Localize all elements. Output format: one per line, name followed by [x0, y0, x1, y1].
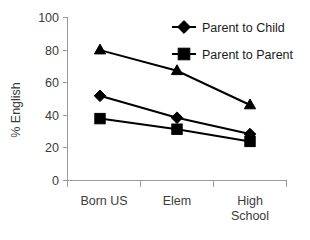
series-parent-to-parent-marker-born-us: [95, 113, 105, 123]
y-tick-label-60: 60: [45, 76, 59, 90]
y-tick-label-100: 100: [38, 11, 59, 25]
legend-label-parent-to-parent: Parent to Parent: [202, 48, 294, 62]
line-chart: 100 80 60 40 20 0 % English Born US Elem…: [0, 0, 310, 240]
chart-container: 100 80 60 40 20 0 % English Born US Elem…: [0, 0, 310, 240]
series-parent-to-parent-marker-high-school: [245, 136, 255, 146]
x-category-label-high-school-line2: School: [231, 209, 269, 223]
x-category-label-born-us: Born US: [80, 194, 127, 208]
y-tick-label-0: 0: [52, 174, 59, 188]
square-icon: [178, 48, 190, 60]
y-tick-label-40: 40: [45, 109, 59, 123]
y-tick-label-20: 20: [45, 141, 59, 155]
y-tick-label-80: 80: [45, 44, 59, 58]
x-category-label-high-school-line1: High: [237, 194, 263, 208]
y-axis-title: % English: [9, 82, 23, 138]
series-parent-to-parent-marker-elem: [172, 124, 182, 134]
x-category-label-elem: Elem: [163, 194, 191, 208]
legend-label-parent-to-child: Parent to Child: [202, 21, 285, 35]
legend-item-parent-to-parent[interactable]: Parent to Parent: [172, 48, 294, 62]
